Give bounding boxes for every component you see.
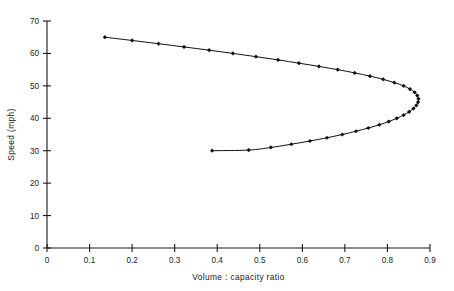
- data-point-marker: [231, 51, 235, 55]
- data-point-marker: [402, 84, 406, 88]
- data-point-marker: [392, 81, 396, 85]
- data-point-marker: [336, 68, 340, 72]
- chart-canvas: 010203040506070 00.10.20.30.40.50.60.70.…: [0, 0, 454, 291]
- data-point-marker: [395, 116, 399, 120]
- data-point-marker: [308, 139, 312, 143]
- x-tick-label: 0.5: [254, 256, 266, 265]
- data-series-group: [103, 35, 421, 153]
- data-point-marker: [381, 77, 385, 81]
- y-tick-label: 40: [30, 114, 40, 123]
- x-axis-title: Volume : capacity ratio: [192, 272, 284, 282]
- data-point-marker: [247, 148, 251, 152]
- x-tick-label: 0.7: [339, 256, 351, 265]
- data-point-marker: [317, 64, 321, 68]
- data-point-marker: [387, 119, 391, 123]
- data-point-marker: [340, 132, 344, 136]
- y-tick-label: 50: [30, 82, 40, 91]
- data-point-marker: [325, 136, 329, 140]
- data-point-marker: [103, 35, 107, 39]
- data-point-marker: [402, 113, 406, 117]
- series-line: [105, 37, 419, 151]
- y-axis: 010203040506070: [30, 17, 51, 253]
- x-axis: 00.10.20.30.40.50.60.70.80.9: [45, 244, 436, 265]
- data-point-marker: [353, 71, 357, 75]
- data-point-marker: [354, 129, 358, 133]
- x-tick-label: 0.4: [212, 256, 224, 265]
- y-axis-title: Speed (mph): [6, 108, 16, 160]
- data-point-marker: [377, 123, 381, 127]
- data-point-marker: [366, 126, 370, 130]
- y-tick-label: 60: [30, 49, 40, 58]
- data-point-marker: [156, 42, 160, 46]
- speed-flow-chart: 010203040506070 00.10.20.30.40.50.60.70.…: [0, 0, 454, 291]
- x-tick-label: 0.2: [126, 256, 138, 265]
- y-tick-label: 0: [34, 244, 39, 253]
- x-tick-label: 0.1: [84, 256, 96, 265]
- data-point-marker: [276, 58, 280, 62]
- data-point-marker: [368, 74, 372, 78]
- data-point-marker: [254, 55, 258, 59]
- data-point-marker: [182, 45, 186, 49]
- x-tick-label: 0.9: [424, 256, 436, 265]
- x-tick-label: 0.3: [169, 256, 181, 265]
- data-point-marker: [269, 145, 273, 149]
- data-point-marker: [130, 38, 134, 42]
- y-tick-label: 10: [30, 212, 40, 221]
- x-tick-label: 0.6: [297, 256, 309, 265]
- data-point-marker: [289, 142, 293, 146]
- data-point-marker: [297, 61, 301, 65]
- y-tick-label: 30: [30, 147, 40, 156]
- data-point-marker: [210, 149, 214, 153]
- x-tick-label: 0: [45, 256, 50, 265]
- x-tick-label: 0.8: [382, 256, 394, 265]
- y-tick-label: 20: [30, 179, 40, 188]
- data-point-marker: [207, 48, 211, 52]
- y-tick-label: 70: [30, 17, 40, 26]
